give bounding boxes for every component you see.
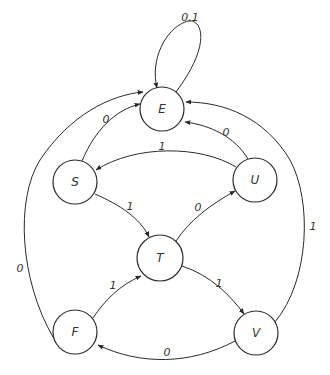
transition-f-to-e	[24, 92, 143, 337]
transition-label: 0	[223, 126, 230, 139]
state-label: V	[252, 326, 261, 340]
transition-label: 0	[103, 113, 110, 126]
state-nodes: ESUTFV	[53, 87, 278, 355]
transition-s-to-t	[95, 194, 149, 237]
transition-label: 1	[159, 140, 166, 153]
transition-label: 1	[127, 200, 134, 213]
state-node-e: E	[140, 87, 184, 131]
transition-label: 0	[164, 346, 171, 359]
transition-e-to-e	[155, 21, 201, 92]
transition-u-to-s	[96, 151, 236, 170]
transition-f-to-t	[93, 276, 141, 318]
transition-t-to-v	[182, 266, 244, 314]
state-diagram: 0,10011011001 ESUTFV	[0, 0, 330, 375]
transition-label: 0,1	[181, 11, 199, 24]
state-label: S	[71, 175, 79, 189]
transition-t-to-u	[176, 191, 235, 241]
state-label: U	[251, 173, 260, 187]
transition-label: 1	[216, 277, 223, 290]
transition-s-to-e	[82, 104, 140, 161]
transition-label: 1	[110, 279, 117, 292]
transition-u-to-e	[185, 122, 248, 159]
state-node-f: F	[53, 310, 97, 354]
state-node-s: S	[53, 160, 97, 204]
state-node-v: V	[234, 311, 278, 355]
transition-label: 0	[195, 201, 202, 214]
state-node-u: U	[233, 158, 277, 202]
transition-label: 1	[310, 220, 317, 233]
state-label: F	[72, 325, 80, 339]
state-node-t: T	[137, 235, 183, 281]
state-label: E	[158, 102, 166, 116]
transition-label: 0	[17, 262, 24, 275]
